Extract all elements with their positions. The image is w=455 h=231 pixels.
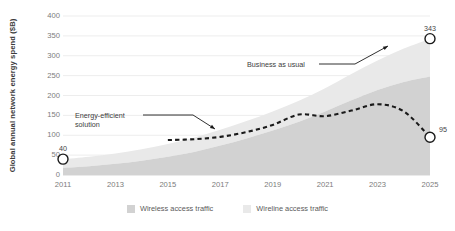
x-axis-tick-2019: 2019 xyxy=(264,181,281,189)
x-axis-tick-2025: 2025 xyxy=(422,181,439,189)
annotation-business-as-usual: Business as usual xyxy=(247,60,305,69)
y-axis-tick-200: 200 xyxy=(26,92,60,100)
y-axis-tick-100: 100 xyxy=(26,131,60,139)
annotation-energy-efficient-solution: Energy-efficient solution xyxy=(75,111,125,129)
chart-container: Global annual network energy spend ($B) … xyxy=(0,0,455,231)
y-axis-tick-400: 400 xyxy=(26,12,60,20)
leader-line-energy-efficient-solution xyxy=(143,115,215,129)
y-axis-tick-350: 350 xyxy=(26,32,60,40)
chart-svg xyxy=(63,16,430,175)
plot-area xyxy=(63,16,430,175)
y-axis-tick-150: 150 xyxy=(26,111,60,119)
x-axis-tick-2011: 2011 xyxy=(55,181,71,189)
y-axis-title-text: Global annual network energy spend ($B) xyxy=(9,18,18,172)
legend-label-wireline: Wireline access traffic xyxy=(256,205,328,212)
x-axis-tick-2015: 2015 xyxy=(159,181,176,189)
legend-item-wireless[interactable]: Wireless access traffic xyxy=(127,205,213,213)
x-axis-tick-2017: 2017 xyxy=(212,181,229,189)
marker-label-start: 40 xyxy=(59,145,67,152)
x-axis-tick-2013: 2013 xyxy=(107,181,124,189)
y-axis-title: Global annual network energy spend ($B) xyxy=(2,0,24,190)
chart-legend: Wireless access traffic Wireline access … xyxy=(0,199,455,219)
y-axis-tick-250: 250 xyxy=(26,72,60,80)
y-axis-tick-0: 0 xyxy=(26,171,60,179)
arrowhead-energy-efficient-solution xyxy=(210,125,215,129)
y-axis-tick-300: 300 xyxy=(26,52,60,60)
marker-bau-end xyxy=(425,34,435,44)
marker-start xyxy=(58,154,68,164)
legend-label-wireless: Wireless access traffic xyxy=(140,205,213,212)
x-axis-tick-labels: 20112013201520172019202120232025 xyxy=(0,181,455,195)
marker-eff-end xyxy=(425,132,435,142)
legend-swatch-wireline xyxy=(243,205,251,213)
x-axis-tick-2023: 2023 xyxy=(369,181,386,189)
marker-label-bau-end: 343 xyxy=(424,25,436,32)
marker-label-eff-end: 95 xyxy=(439,126,447,133)
x-axis-tick-2021: 2021 xyxy=(317,181,334,189)
legend-item-wireline[interactable]: Wireline access traffic xyxy=(243,205,328,213)
y-axis-tick-50: 50 xyxy=(26,151,60,159)
y-axis-tick-labels: 400350300250200150100500 xyxy=(22,0,60,231)
arrowhead-business-as-usual xyxy=(383,46,388,50)
legend-swatch-wireless xyxy=(127,205,135,213)
